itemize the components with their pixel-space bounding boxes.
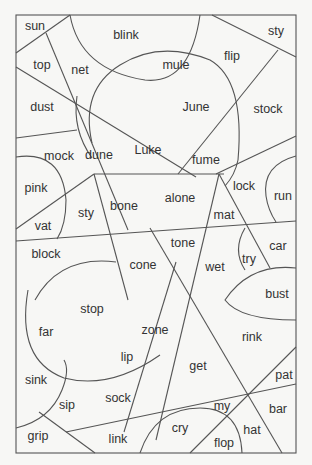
word-wet[interactable]: wet (205, 260, 224, 274)
divider-line (216, 136, 296, 174)
word-sock[interactable]: sock (105, 391, 131, 405)
word-try[interactable]: try (242, 252, 256, 266)
word-flop[interactable]: flop (214, 436, 234, 450)
word-top[interactable]: top (33, 58, 50, 72)
word-blink[interactable]: blink (113, 28, 139, 42)
word-stop[interactable]: stop (80, 302, 104, 316)
word-hat[interactable]: hat (243, 423, 260, 437)
word-cone[interactable]: cone (129, 258, 156, 272)
word-block[interactable]: block (31, 247, 60, 261)
word-bust[interactable]: bust (265, 287, 289, 301)
word-sty[interactable]: sty (78, 206, 94, 220)
word-alone[interactable]: alone (165, 191, 196, 205)
word-dune[interactable]: dune (85, 148, 113, 162)
word-pat[interactable]: pat (275, 368, 292, 382)
word-tone[interactable]: tone (171, 236, 195, 250)
word-car[interactable]: car (269, 239, 286, 253)
word-link[interactable]: link (109, 432, 128, 446)
word-rink[interactable]: rink (242, 330, 262, 344)
word-bar[interactable]: bar (269, 402, 287, 416)
word-june[interactable]: June (182, 100, 209, 114)
word-fume[interactable]: fume (192, 153, 220, 167)
word-vat[interactable]: vat (35, 219, 52, 233)
divider-line (156, 174, 219, 440)
word-get[interactable]: get (189, 359, 206, 373)
divider-line (94, 174, 128, 300)
word-luke[interactable]: Luke (134, 143, 161, 157)
word-bone[interactable]: bone (110, 199, 138, 213)
word-sip[interactable]: sip (59, 398, 75, 412)
word-lock[interactable]: lock (233, 179, 255, 193)
word-stock[interactable]: stock (253, 102, 282, 116)
word-mock[interactable]: mock (44, 149, 74, 163)
divider-arc (26, 261, 160, 381)
word-dust[interactable]: dust (30, 100, 54, 114)
word-flip[interactable]: flip (224, 49, 240, 63)
word-lip[interactable]: lip (121, 350, 134, 364)
word-run[interactable]: run (274, 189, 292, 203)
divider-line (16, 130, 77, 138)
word-grip[interactable]: grip (28, 429, 49, 443)
word-my[interactable]: my (214, 399, 231, 413)
puzzle-border (16, 15, 296, 453)
word-cry[interactable]: cry (172, 421, 189, 435)
word-mat[interactable]: mat (214, 208, 235, 222)
word-sty-top[interactable]: sty (268, 24, 284, 38)
word-sink[interactable]: sink (25, 373, 47, 387)
word-zone[interactable]: zone (141, 323, 168, 337)
word-mule[interactable]: mule (162, 58, 189, 72)
divider-arc (16, 360, 67, 428)
word-net[interactable]: net (71, 63, 88, 77)
word-pink[interactable]: pink (25, 181, 48, 195)
word-sun[interactable]: sun (25, 19, 45, 33)
divider-line (124, 262, 176, 432)
word-far[interactable]: far (39, 325, 54, 339)
